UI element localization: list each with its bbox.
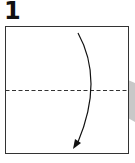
paper-shadow bbox=[128, 80, 135, 122]
fold-diagram bbox=[0, 0, 135, 163]
